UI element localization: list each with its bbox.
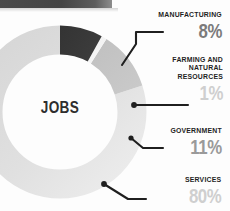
- callout-value-government: 11%: [174, 136, 222, 157]
- callout-value-services: 80%: [187, 185, 221, 206]
- callout-label-farming-line3: RESOURCES: [151, 73, 223, 81]
- callout-government: GOVERNMENT 11%: [162, 127, 222, 157]
- callout-value-farming: 1%: [156, 82, 223, 103]
- callout-services: SERVICES 80%: [179, 176, 221, 206]
- infographic-root: JOBS MANUFACTURING 8% FARMING AND NATURA…: [0, 0, 230, 211]
- top-banner-shadow: [0, 8, 118, 12]
- callout-label-manufacturing: MANUFACTURING: [158, 11, 222, 19]
- callout-label-services: SERVICES: [185, 176, 221, 184]
- top-banner-bar: [0, 0, 112, 8]
- callout-farming-natural-resources: FARMING AND NATURAL RESOURCES 1%: [139, 56, 223, 103]
- callout-label-government: GOVERNMENT: [171, 127, 222, 135]
- callout-value-manufacturing: 8%: [163, 20, 222, 41]
- donut-center-label: JOBS: [0, 98, 130, 118]
- callout-manufacturing: MANUFACTURING 8%: [148, 11, 222, 41]
